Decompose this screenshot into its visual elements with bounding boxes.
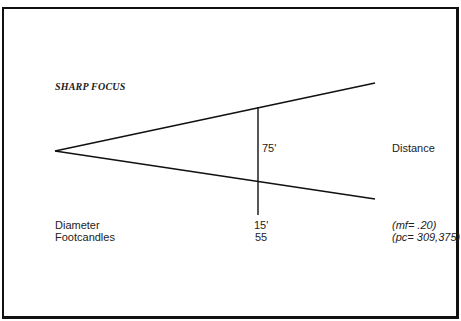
mf-param: (mf= .20)	[392, 220, 436, 231]
diagram-title: SHARP FOCUS	[55, 81, 125, 92]
footcandles-value: 55	[255, 232, 267, 243]
distance-label: Distance	[392, 143, 435, 154]
beam-height-label: 75'	[262, 143, 276, 154]
beam-lower-edge	[55, 151, 375, 199]
beam-diagram	[0, 0, 461, 321]
beam-upper-edge	[55, 83, 375, 151]
diameter-label: Diameter	[55, 220, 100, 231]
footcandles-label: Footcandles	[55, 232, 115, 243]
pc-param: (pc= 309,375)	[392, 232, 460, 243]
diameter-value: 15'	[254, 220, 268, 231]
